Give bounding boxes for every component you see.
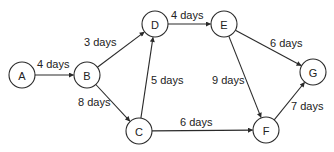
- node-e: E: [211, 11, 237, 37]
- edge-label-b-d: 3 days: [84, 36, 117, 48]
- node-f: F: [253, 117, 279, 143]
- node-label: A: [18, 70, 26, 82]
- diagram-canvas: ABCDEFG 4 days3 days8 days5 days4 days6 …: [0, 0, 334, 152]
- node-c: C: [126, 118, 152, 144]
- node-label: C: [135, 126, 143, 138]
- node-label: D: [151, 19, 159, 31]
- network-diagram: ABCDEFG 4 days3 days8 days5 days4 days6 …: [0, 0, 334, 152]
- node-a: A: [9, 62, 35, 88]
- node-label: G: [309, 67, 318, 79]
- node-d: D: [142, 11, 168, 37]
- edge-label-c-f: 6 days: [180, 116, 213, 128]
- node-label: F: [263, 125, 270, 137]
- edge-label-d-e: 4 days: [171, 9, 204, 21]
- node-b: B: [74, 62, 100, 88]
- edge-label-a-b: 4 days: [37, 58, 70, 70]
- edge-c-f-arrow: [152, 130, 253, 131]
- node-label: E: [220, 19, 227, 31]
- node-label: B: [83, 70, 90, 82]
- node-g: G: [300, 59, 326, 85]
- edge-label-e-g: 6 days: [270, 37, 303, 49]
- edge-label-f-g: 7 days: [291, 100, 324, 112]
- edge-label-b-c: 8 days: [78, 96, 111, 108]
- edge-label-c-d: 5 days: [151, 74, 184, 86]
- edge-label-e-f: 9 days: [212, 74, 245, 86]
